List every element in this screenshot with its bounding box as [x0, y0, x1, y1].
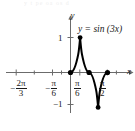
graph-canvas: [0, 0, 135, 131]
point-minimum: [96, 105, 101, 110]
fraction: 2π 3: [16, 79, 27, 98]
y-axis-label: y: [71, 11, 75, 20]
y-tick-label-1: 1: [58, 34, 63, 43]
fraction-denominator: 2: [99, 88, 106, 98]
fraction-denominator: 6: [74, 88, 81, 98]
y-tick-label-minus-1: −1: [53, 100, 63, 109]
fraction-numerator: π: [51, 79, 58, 88]
fraction-numerator: π: [99, 79, 106, 88]
fraction-denominator: 3: [16, 88, 27, 98]
point-maximum: [78, 35, 83, 40]
fraction: π 6: [74, 79, 81, 98]
sine-graph-figure: y t pe oa os d: [0, 0, 135, 131]
fraction-numerator: π: [74, 79, 81, 88]
point-zero-end: [105, 70, 110, 75]
fraction: π 6: [51, 79, 58, 98]
x-tick-label-pi-over-2: π 2: [99, 79, 106, 98]
x-tick-label-minus-pi-over-6: − π 6: [45, 79, 57, 98]
x-axis-label: x: [127, 67, 131, 76]
fraction: π 2: [99, 79, 106, 98]
x-tick-label-pi-over-6: π 6: [74, 79, 81, 98]
point-zero-origin: [68, 70, 73, 75]
fraction-denominator: 6: [51, 88, 58, 98]
fraction-numerator: 2π: [16, 79, 27, 88]
curve-equation-label: y = sin (3x): [78, 25, 122, 35]
point-zero-mid: [87, 70, 92, 75]
x-tick-label-minus-2pi-over-3: − 2π 3: [10, 79, 27, 98]
